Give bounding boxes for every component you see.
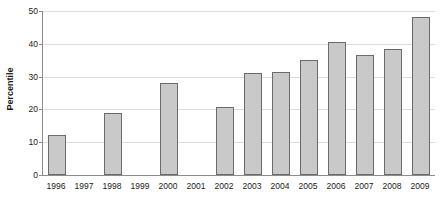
x-axis-tick-label: 2006 [322,180,350,196]
y-axis-title: Percentile [0,0,20,178]
bar-slot [183,11,211,175]
bar [160,83,178,175]
x-axis-tick-label: 1998 [98,180,126,196]
bar-slot [323,11,351,175]
bar-slot [239,11,267,175]
bar [244,73,262,175]
x-axis-tick-label: 2009 [406,180,434,196]
x-axis-tick-label: 2007 [350,180,378,196]
bar [48,135,66,175]
bar-slot [99,11,127,175]
bar-slot [211,11,239,175]
bar-slot [267,11,295,175]
x-axis-tick-label: 1997 [70,180,98,196]
y-axis-tick-label: 40 [18,39,38,48]
x-axis-tick-label: 2004 [266,180,294,196]
x-axis-tick-label: 2001 [182,180,210,196]
x-axis-tick-label: 1996 [42,180,70,196]
bar-slot [71,11,99,175]
bar [272,72,290,175]
y-axis-tick-label: 30 [18,72,38,81]
y-axis-title-label: Percentile [5,67,15,110]
x-axis-tick-label: 2002 [210,180,238,196]
x-axis-tick-label: 1999 [126,180,154,196]
bar [356,55,374,175]
y-axis-tick-label: 10 [18,138,38,147]
y-axis-tick-labels: 01020304050 [18,11,38,179]
y-axis-tick-label: 0 [18,171,38,180]
bar-slot [379,11,407,175]
bar-slot [351,11,379,175]
bar [216,107,234,175]
bars-layer [43,11,435,175]
y-axis-tick-label: 50 [18,7,38,16]
bar [384,49,402,175]
bar [300,60,318,175]
x-axis-tick-label: 2003 [238,180,266,196]
bar-slot [407,11,435,175]
bar [328,42,346,175]
bar-slot [155,11,183,175]
y-axis-tick-mark [39,175,43,176]
bar [412,17,430,175]
bar [104,113,122,175]
bar-slot [295,11,323,175]
x-axis-tick-label: 2005 [294,180,322,196]
x-axis-tick-label: 2000 [154,180,182,196]
y-axis-tick-label: 20 [18,105,38,114]
bar-chart: Percentile 01020304050 19961997199819992… [0,0,444,205]
bar-slot [127,11,155,175]
x-axis-tick-label: 2008 [378,180,406,196]
bar-slot [43,11,71,175]
plot-area [42,11,435,176]
x-axis-tick-labels: 1996199719981999200020012002200320042005… [42,180,434,196]
